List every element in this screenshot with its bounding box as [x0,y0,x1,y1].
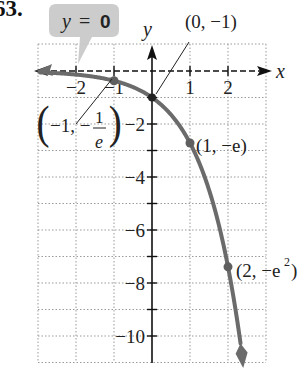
label-point-2-sup: 2 [284,255,290,269]
point-marker [224,262,233,271]
label-point-neg1: ( −1, − 1 e ) [37,97,122,152]
y-tick-label: −8 [125,273,145,294]
callout-var: y [60,10,71,33]
curve-arrow-down-icon [236,343,248,368]
label-point-2: (2, −e 2 ) [236,255,297,282]
label-point-neg1-num: 1 [95,108,104,127]
point-marker [148,94,156,102]
leader-line-p0 [156,42,189,94]
callout-value: 0 [100,11,111,32]
y-tick-label: −4 [125,167,146,188]
svg-text:): ) [109,97,122,149]
y-axis-label: y [141,18,152,41]
asymptote-callout: y = 0 [49,4,119,64]
label-point-2-b: ) [291,260,297,282]
function-graph: y = 0 −2−112 −2−4−6−8−10 x y (0, −1) (1,… [0,0,298,373]
x-tick-label: 1 [185,77,195,98]
label-point-neg1-den: e [95,132,103,152]
label-point-0: (0, −1) [185,11,237,33]
svg-text:(: ( [37,97,50,149]
label-point-neg1-a: −1, − [50,115,90,136]
y-tick-label: −2 [125,114,145,135]
x-tick-label: 2 [223,77,233,98]
label-point-2-a: (2, −e [236,260,280,282]
x-axis-label: x [275,60,285,82]
y-tick-label: −6 [125,220,145,241]
point-marker [186,139,195,148]
y-tick-label: −10 [115,326,145,347]
callout-eq: = [74,10,95,32]
label-point-1: (1, −e) [196,135,247,157]
x-tick-label: −2 [66,77,86,98]
